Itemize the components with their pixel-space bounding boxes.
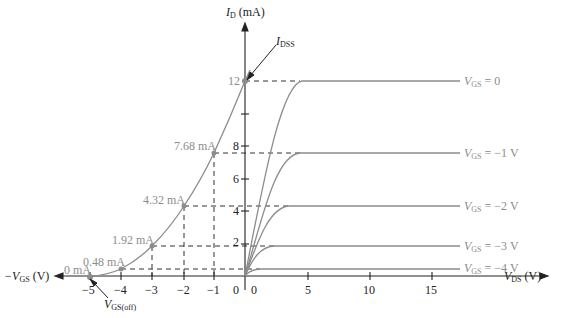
vgs-axis-sub: GS [19, 275, 29, 284]
curve-label-value: = −3 V [482, 239, 519, 253]
point-label-0: 0 mA [64, 264, 91, 276]
curve-label-sub: GS [471, 152, 481, 161]
curve-label-vgs-m2: VGS = −2 V [464, 200, 519, 216]
id-axis-label: ID (mA) [226, 6, 265, 22]
vgs-tick-m4: −4 [114, 284, 127, 296]
vgs-axis-unit: (V) [30, 269, 50, 283]
vgs-tick-m2: −2 [177, 284, 190, 296]
vgs-axis-label: −VGS (V) [4, 270, 49, 286]
curve-label-value: = −1 V [482, 146, 519, 160]
point-label-4-32: 4.32 mA [143, 194, 185, 206]
curve-label-value: = 0 [482, 74, 501, 88]
idss-label: IDSS [276, 35, 295, 51]
curve-label-vgs-m3: VGS = −3 V [464, 240, 519, 256]
vds-tick-0: 0 [251, 284, 257, 296]
curve-label-value: = −4 V [482, 261, 519, 275]
curve-label-vgs-m1: VGS = −1 V [464, 147, 519, 163]
point-label-12: 12 [228, 75, 240, 87]
curve-label-vgs-m4: VGS = −4 V [464, 262, 519, 278]
vgsoff-sub: GS(off) [111, 303, 136, 312]
vgs-tick-m3: −3 [145, 284, 158, 296]
arrow-up-icon [242, 23, 248, 31]
vgs-axis-symbol: −V [4, 269, 19, 283]
data-points [87, 78, 248, 280]
id-tick-8: 8 [233, 140, 239, 152]
curve-label-sub: GS [471, 245, 481, 254]
vgsoff-label: VGS(off) [104, 298, 136, 314]
id-tick-4: 4 [233, 205, 239, 217]
vds-tick-15: 15 [425, 284, 437, 296]
curve-label-sub: GS [471, 267, 481, 276]
idss-sub: DSS [280, 40, 295, 49]
vds-tick-5: 5 [305, 284, 311, 296]
vgs-tick-m5: −5 [82, 284, 95, 296]
curve-label-vgs-0: VGS = 0 [464, 75, 500, 91]
point-label-1-92: 1.92 mA [112, 234, 154, 246]
curve-label-sub: GS [471, 80, 481, 89]
vgs-tick-m1: −1 [207, 284, 220, 296]
id-axis-unit: (mA) [236, 5, 265, 19]
vds-axis-unit: (V) [522, 269, 542, 283]
drain-curves [245, 81, 460, 276]
curve-label-value: = −2 V [482, 199, 519, 213]
vgs-tick-0: 0 [233, 284, 239, 296]
curve-label-sub: GS [471, 205, 481, 214]
point-label-7-68: 7.68 mA [174, 140, 216, 152]
id-tick-2: 2 [233, 236, 239, 248]
id-tick-6: 6 [233, 173, 239, 185]
vds-tick-10: 10 [363, 284, 375, 296]
arrow-left-icon [55, 273, 63, 279]
